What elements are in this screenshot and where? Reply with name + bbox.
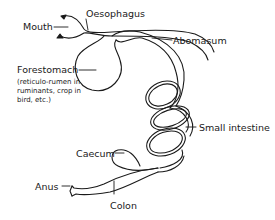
label-anus: Anus <box>35 182 59 192</box>
label-small-intestine: Small intestine <box>199 123 270 133</box>
small-intestine-coils <box>141 76 192 172</box>
label-mouth: Mouth <box>23 22 53 32</box>
label-forestomach-note: (reticulo-rumen in ruminants, crop in bi… <box>17 78 81 105</box>
label-caecum: Caecum <box>76 149 115 159</box>
label-oesophagus: Oesophagus <box>86 9 145 19</box>
label-colon: Colon <box>110 201 137 211</box>
digestive-tract-diagram: Mouth Oesophagus Abomasum Forestomach (r… <box>0 0 275 220</box>
label-abomasum: Abomasum <box>173 36 227 46</box>
forestomach-shape <box>75 36 121 91</box>
label-forestomach: Forestomach <box>17 65 78 75</box>
